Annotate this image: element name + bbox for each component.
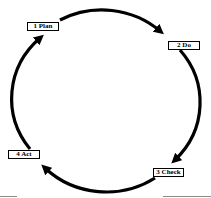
stage-label-check: 3 Check: [153, 168, 184, 177]
arrow-check-to-act: [45, 168, 155, 192]
cropped-edge-line-left: [0, 196, 17, 197]
arrow-plan-to-do: [60, 10, 160, 31]
arrow-do-to-check: [175, 50, 200, 160]
stage-label-plan: 1 Plan: [27, 22, 59, 31]
cropped-edge-line-right: [163, 196, 211, 197]
arrow-act-to-plan: [12, 38, 40, 149]
pdca-cycle-diagram: 1 Plan 2 Do 3 Check 4 Act: [0, 0, 211, 198]
stage-label-do: 2 Do: [168, 41, 200, 50]
stage-label-act: 4 Act: [8, 150, 40, 159]
